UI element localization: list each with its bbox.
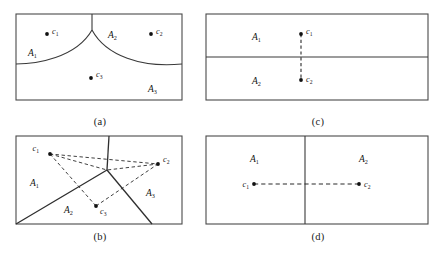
panel-b-point-c3 [94,204,98,208]
panel-b-point-c2 [156,162,160,166]
panel-a-caption: (a) [14,116,186,127]
panel-a-point-c3 [89,76,93,80]
panel-b: c1 c2 c3 A1 A2 A3 (b) [14,134,186,246]
panel-c-point-c2 [299,78,303,82]
panel-d-point-c2 [357,182,361,186]
panel-c-graphic: c1 c2 A1 A2 [204,12,432,112]
panel-c-caption: (c) [204,116,432,127]
panel-d: c1 c2 A1 A2 (d) [204,134,432,246]
panel-d-caption: (d) [204,231,432,242]
panel-b-caption: (b) [14,231,186,242]
figure-container: c1 c2 c3 A1 A2 A3 (a) c1 [0,0,435,259]
panel-b-graphic: c1 c2 c3 A1 A2 A3 [14,134,186,234]
panel-d-graphic: c1 c2 A1 A2 [204,134,432,234]
panel-a-point-c1 [45,32,49,36]
panel-a-graphic: c1 c2 c3 A1 A2 A3 [14,12,186,112]
panel-b-frame [16,136,182,224]
panel-d-point-c1 [252,182,256,186]
panel-a: c1 c2 c3 A1 A2 A3 (a) [14,12,186,120]
panel-b-point-c1 [48,152,52,156]
panel-c-point-c1 [299,32,303,36]
panel-a-point-c2 [149,32,153,36]
panel-d-frame [206,136,428,224]
panel-c: c1 c2 A1 A2 (c) [204,12,432,120]
